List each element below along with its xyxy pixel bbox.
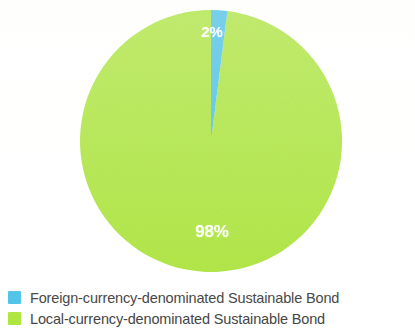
chart-legend: Foreign-currency-denominated Sustainable… xyxy=(8,287,413,329)
legend-item-local-currency[interactable]: Local-currency-denominated Sustainable B… xyxy=(8,308,413,329)
pie-chart-plot-area: 2% 98% xyxy=(0,0,415,280)
pie-label-foreign-currency: 2% xyxy=(184,23,240,41)
legend-label-foreign-currency: Foreign-currency-denominated Sustainable… xyxy=(30,289,339,307)
legend-swatch-foreign-currency-icon xyxy=(8,291,21,304)
legend-item-foreign-currency[interactable]: Foreign-currency-denominated Sustainable… xyxy=(8,287,413,308)
pie-chart-figure: 2% 98% Foreign-currency-denominated Sust… xyxy=(0,0,415,333)
legend-swatch-local-currency-icon xyxy=(8,312,21,325)
legend-label-local-currency: Local-currency-denominated Sustainable B… xyxy=(30,310,325,328)
pie-label-local-currency: 98% xyxy=(181,222,243,242)
